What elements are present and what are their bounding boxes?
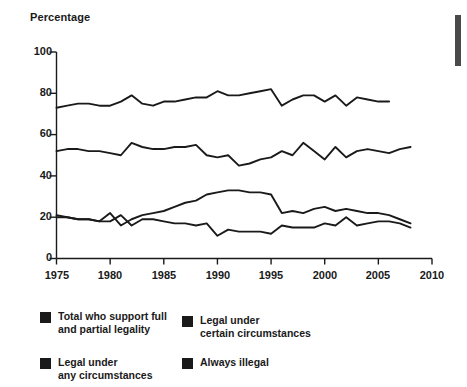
legend-swatch-icon (182, 358, 193, 369)
x-axis-ticks (57, 259, 433, 265)
line-chart: Percentage 100 80 60 40 20 0 1975 1980 1… (0, 0, 467, 387)
legend-item-label: Legal under any circumstances (58, 356, 153, 382)
series-line (57, 89, 390, 108)
legend-item-label: Always illegal (200, 356, 269, 369)
legend-item-legal-any: Legal under any circumstances (40, 356, 153, 382)
series-lines (57, 89, 411, 236)
legend-item-label: Legal under certain circumstances (200, 314, 311, 340)
plot-area (0, 0, 467, 300)
chart-legend: Total who support full and partial legal… (0, 300, 467, 387)
legend-item-label: Total who support full and partial legal… (58, 310, 167, 336)
series-line (57, 215, 411, 236)
legend-swatch-icon (182, 316, 193, 327)
legend-swatch-icon (40, 312, 51, 323)
y-axis-ticks (50, 52, 57, 259)
scrollbar-thumb[interactable] (455, 15, 461, 66)
series-line (57, 190, 411, 225)
series-line (57, 143, 411, 166)
legend-item-total-support: Total who support full and partial legal… (40, 310, 167, 336)
legend-item-always-illegal: Always illegal (182, 356, 269, 369)
legend-item-legal-certain: Legal under certain circumstances (182, 314, 311, 340)
legend-swatch-icon (40, 358, 51, 369)
